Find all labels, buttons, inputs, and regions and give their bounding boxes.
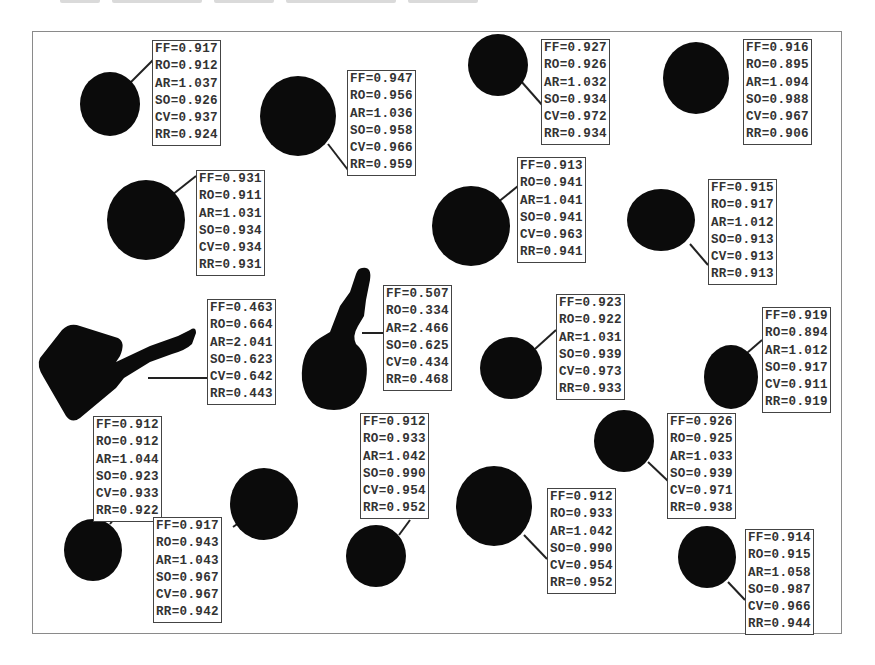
particle-p1: [80, 72, 140, 136]
metric-ar: AR=1.042: [550, 524, 613, 541]
particle-p9: [302, 268, 371, 410]
metric-rr: RR=0.933: [559, 381, 622, 398]
metric-ar: AR=2.041: [210, 335, 273, 352]
metric-cv: CV=0.934: [199, 240, 262, 257]
metric-so: SO=0.917: [765, 360, 828, 377]
metrics-label-p9: FF=0.507RO=0.334AR=2.466SO=0.625CV=0.434…: [383, 285, 452, 391]
metric-ar: AR=1.033: [670, 449, 733, 466]
metric-rr: RR=0.913: [711, 266, 774, 283]
metric-ro: RO=0.664: [210, 317, 273, 334]
metric-so: SO=0.988: [746, 92, 809, 109]
metric-ro: RO=0.895: [746, 57, 809, 74]
particle-p16: [594, 410, 654, 472]
metric-ar: AR=1.042: [363, 449, 426, 466]
metrics-label-p5: FF=0.931RO=0.911AR=1.031SO=0.934CV=0.934…: [196, 170, 265, 276]
metric-cv: CV=0.954: [363, 483, 426, 500]
metric-cv: CV=0.973: [559, 364, 622, 381]
metric-ff: FF=0.916: [746, 40, 809, 57]
metric-ro: RO=0.925: [670, 431, 733, 448]
metrics-label-p15: FF=0.912RO=0.933AR=1.042SO=0.990CV=0.954…: [547, 488, 616, 594]
metric-rr: RR=0.952: [363, 500, 426, 517]
metric-ar: AR=1.032: [544, 75, 607, 92]
metric-rr: RR=0.906: [746, 126, 809, 143]
metrics-label-p2: FF=0.947RO=0.956AR=1.036SO=0.958CV=0.966…: [347, 70, 416, 176]
metric-ar: AR=1.094: [746, 75, 809, 92]
metric-cv: CV=0.954: [550, 558, 613, 575]
metric-cv: CV=0.972: [544, 109, 607, 126]
particle-p17: [678, 526, 736, 588]
metric-so: SO=0.967: [156, 570, 219, 587]
metric-so: SO=0.923: [96, 469, 159, 486]
metric-ar: AR=1.058: [748, 565, 811, 582]
metric-ar: AR=1.031: [559, 330, 622, 347]
metric-ro: RO=0.911: [199, 188, 262, 205]
metric-so: SO=0.939: [559, 347, 622, 364]
metric-ff: FF=0.917: [156, 518, 219, 535]
metric-ff: FF=0.507: [386, 286, 449, 303]
metrics-label-p16: FF=0.926RO=0.925AR=1.033SO=0.939CV=0.971…: [667, 413, 736, 519]
metric-ff: FF=0.915: [711, 180, 774, 197]
metric-so: SO=0.990: [363, 466, 426, 483]
metrics-label-p17: FF=0.914RO=0.915AR=1.058SO=0.987CV=0.966…: [745, 529, 814, 635]
metric-ff: FF=0.912: [96, 417, 159, 434]
particle-p7: [627, 189, 695, 251]
leader-line-p5: [172, 176, 196, 195]
particle-p10: [480, 337, 542, 399]
leader-line-p11: [747, 340, 762, 353]
metric-ff: FF=0.926: [670, 414, 733, 431]
particle-p13: [230, 468, 298, 540]
metric-ro: RO=0.915: [748, 547, 811, 564]
metric-cv: CV=0.933: [96, 486, 159, 503]
metrics-label-p10: FF=0.923RO=0.922AR=1.031SO=0.939CV=0.973…: [556, 294, 625, 400]
metric-cv: CV=0.966: [748, 599, 811, 616]
metric-ar: AR=1.012: [711, 215, 774, 232]
metrics-label-p12: FF=0.912RO=0.912AR=1.044SO=0.923CV=0.933…: [93, 416, 162, 522]
metric-ff: FF=0.913: [520, 158, 583, 175]
metric-ro: RO=0.334: [386, 303, 449, 320]
metric-ar: AR=1.041: [520, 193, 583, 210]
metrics-label-p14: FF=0.912RO=0.933AR=1.042SO=0.990CV=0.954…: [360, 413, 429, 519]
metric-ff: FF=0.919: [765, 308, 828, 325]
metric-ar: AR=2.466: [386, 321, 449, 338]
metric-ro: RO=0.956: [350, 88, 413, 105]
metrics-label-p7: FF=0.915RO=0.917AR=1.012SO=0.913CV=0.913…: [708, 179, 777, 285]
leader-line-p1: [130, 60, 153, 83]
metric-ro: RO=0.941: [520, 175, 583, 192]
metric-so: SO=0.623: [210, 352, 273, 369]
metrics-label-p11: FF=0.919RO=0.894AR=1.012SO=0.917CV=0.911…: [762, 307, 831, 413]
metric-cv: CV=0.963: [520, 227, 583, 244]
metric-ff: FF=0.927: [544, 40, 607, 57]
metric-ro: RO=0.922: [559, 312, 622, 329]
leader-line-p15: [524, 535, 547, 559]
metric-ro: RO=0.933: [550, 506, 613, 523]
metric-rr: RR=0.922: [96, 503, 159, 520]
metric-cv: CV=0.966: [350, 140, 413, 157]
metric-ff: FF=0.931: [199, 171, 262, 188]
metric-so: SO=0.941: [520, 210, 583, 227]
particle-p8: [39, 325, 196, 421]
metric-rr: RR=0.931: [199, 257, 262, 274]
metric-ff: FF=0.947: [350, 71, 413, 88]
metric-cv: CV=0.967: [746, 109, 809, 126]
leader-line-p10: [535, 330, 556, 349]
metric-cv: CV=0.971: [670, 483, 733, 500]
metrics-label-p3: FF=0.927RO=0.926AR=1.032SO=0.934CV=0.972…: [541, 39, 610, 145]
metric-so: SO=0.939: [670, 466, 733, 483]
metric-rr: RR=0.919: [765, 394, 828, 411]
metric-ff: FF=0.914: [748, 530, 811, 547]
metrics-label-p8: FF=0.463RO=0.664AR=2.041SO=0.623CV=0.642…: [207, 299, 276, 405]
metric-ff: FF=0.923: [559, 295, 622, 312]
leader-line-p7: [690, 244, 708, 265]
particle-p6: [432, 186, 510, 266]
particle-p4: [663, 42, 729, 114]
metric-rr: RR=0.924: [155, 127, 218, 144]
particle-p2: [260, 76, 336, 156]
metric-rr: RR=0.959: [350, 157, 413, 174]
metric-ro: RO=0.912: [155, 58, 218, 75]
metric-rr: RR=0.952: [550, 575, 613, 592]
metric-ff: FF=0.917: [155, 41, 218, 58]
metric-so: SO=0.913: [711, 232, 774, 249]
metric-ro: RO=0.926: [544, 57, 607, 74]
metric-so: SO=0.934: [199, 223, 262, 240]
metric-ar: AR=1.037: [155, 76, 218, 93]
